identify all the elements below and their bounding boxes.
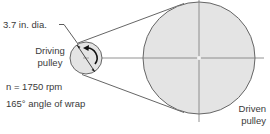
speed-label: n = 1750 rpm: [6, 81, 62, 92]
driven-center-mark: [197, 56, 201, 60]
diameter-leader: [59, 25, 78, 45]
driven-pulley-label-line1: Driven: [222, 103, 266, 114]
wrap-angle-label: 165° angle of wrap: [6, 98, 85, 109]
driven-pulley-label-line2: pulley: [222, 115, 266, 126]
diameter-label: 3.7 in. dia.: [3, 19, 47, 30]
driving-pulley-label: Driving pulley: [30, 45, 70, 68]
driving-pulley-label-line1: Driving: [30, 45, 70, 56]
driving-pulley-label-line2: pulley: [30, 57, 70, 68]
driven-pulley-label: Driven pulley: [222, 103, 266, 126]
